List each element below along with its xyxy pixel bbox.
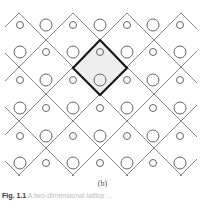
small-atom-circle <box>177 77 184 84</box>
large-atom-circle <box>67 157 79 169</box>
figure-caption: Fig. 1.1 A two-dimensional lattice ... <box>2 192 113 199</box>
small-atom-circle <box>97 160 104 167</box>
small-atom-circle <box>17 133 24 140</box>
subfigure-label: (b) <box>0 179 205 188</box>
large-atom-circle <box>121 157 133 169</box>
small-atom-circle <box>43 49 50 56</box>
large-atom-circle <box>67 46 79 58</box>
small-atom-circle <box>43 105 50 112</box>
large-atom-circle <box>174 157 186 169</box>
large-atom-circle <box>40 130 52 142</box>
caption-prefix: Fig. 1.1 <box>2 192 26 199</box>
small-atom-circle <box>150 105 157 112</box>
large-atom-circle <box>121 46 133 58</box>
small-atom-circle <box>17 77 24 84</box>
small-atom-circle <box>97 105 104 112</box>
small-atom-circle <box>124 77 131 84</box>
large-atom-circle <box>40 74 52 86</box>
large-atom-circle <box>174 102 186 114</box>
small-atom-circle <box>43 160 50 167</box>
small-atom-circle <box>70 77 77 84</box>
large-atom-circle <box>14 46 26 58</box>
small-atom-circle <box>124 133 131 140</box>
large-atom-circle <box>67 102 79 114</box>
small-atom-circle <box>70 22 77 29</box>
small-atom-circle <box>150 49 157 56</box>
large-atom-circle <box>14 102 26 114</box>
large-atom-circle <box>14 157 26 169</box>
lattice-diagram <box>0 0 205 180</box>
large-atom-circle <box>94 19 106 31</box>
large-atom-circle <box>40 19 52 31</box>
large-atom-circle <box>121 102 133 114</box>
large-atom-circle <box>174 46 186 58</box>
large-atom-circle <box>147 130 159 142</box>
small-atom-circle <box>17 22 24 29</box>
large-atom-circle <box>147 74 159 86</box>
small-atom-circle <box>70 133 77 140</box>
small-atom-circle <box>150 160 157 167</box>
large-atom-circle <box>94 130 106 142</box>
small-atom-circle <box>177 22 184 29</box>
caption-text: A two-dimensional lattice ... <box>28 192 113 199</box>
small-atom-circle <box>124 22 131 29</box>
large-atom-circle <box>147 19 159 31</box>
small-atom-circle <box>177 133 184 140</box>
